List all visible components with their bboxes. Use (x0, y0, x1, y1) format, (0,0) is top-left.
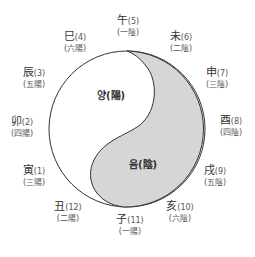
branch-name: 巳(4) (64, 31, 86, 44)
branch-name: 寅(1) (23, 165, 45, 178)
branch-char: 寅 (23, 164, 34, 177)
branch-name: 酉(8) (220, 115, 242, 128)
branch-number: (2) (22, 118, 33, 127)
branch-phase: (三陽) (23, 178, 45, 188)
branch-phase: (六陰) (166, 214, 193, 224)
yin-label: 음(陰) (129, 156, 157, 171)
branch-number: (11) (127, 216, 143, 225)
branch-name: 丑(12) (54, 201, 81, 214)
branch-phase: (一陰) (117, 28, 139, 38)
branch-number: (12) (65, 203, 81, 212)
branch-label: 子(11)(一陽) (116, 214, 143, 237)
branch-char: 亥 (166, 200, 177, 213)
branch-label: 巳(4)(六陽) (64, 31, 86, 54)
branch-char: 巳 (64, 30, 75, 43)
branch-label: 申(7)(三陰) (206, 67, 228, 90)
branch-label: 辰(3)(五陽) (23, 67, 45, 90)
branch-name: 午(5) (117, 15, 139, 28)
branch-label: 酉(8)(四陰) (220, 115, 242, 138)
branch-name: 亥(10) (166, 201, 193, 214)
branch-char: 戌 (204, 164, 215, 177)
branch-name: 辰(3) (23, 67, 45, 80)
branch-phase: (五陽) (23, 80, 45, 90)
branch-name: 戌(9) (204, 165, 226, 178)
branch-char: 丑 (54, 200, 65, 213)
branch-label: 丑(12)(二陽) (54, 201, 81, 224)
branch-name: 子(11) (116, 214, 143, 227)
branch-name: 卯(2) (11, 116, 33, 129)
branch-char: 辰 (23, 66, 34, 79)
branch-phase: (三陰) (206, 80, 228, 90)
branch-number: (4) (75, 33, 86, 42)
branch-number: (9) (215, 167, 226, 176)
branch-number: (7) (217, 69, 228, 78)
branch-number: (1) (34, 167, 45, 176)
branch-phase: (二陰) (170, 44, 192, 54)
branch-phase: (一陽) (116, 227, 143, 237)
branch-phase: (六陽) (64, 44, 86, 54)
branch-phase: (五陰) (204, 178, 226, 188)
branch-label: 寅(1)(三陽) (23, 165, 45, 188)
branch-char: 未 (170, 30, 181, 43)
branch-char: 卯 (11, 115, 22, 128)
branch-char: 申 (206, 66, 217, 79)
branch-name: 申(7) (206, 67, 228, 80)
branch-char: 酉 (220, 114, 231, 127)
yang-label: 양(陽) (97, 87, 125, 102)
branch-number: (8) (231, 117, 242, 126)
yin-yang-diagram: 양(陽) 음(陰) 午(5)(一陰)未(6)(二陰)申(7)(三陰)酉(8)(四… (0, 0, 255, 257)
branch-label: 亥(10)(六陰) (166, 201, 193, 224)
branch-label: 午(5)(一陰) (117, 15, 139, 38)
branch-label: 戌(9)(五陰) (204, 165, 226, 188)
branch-char: 子 (116, 213, 127, 226)
branch-phase: (二陽) (54, 214, 81, 224)
branch-phase: (四陽) (11, 129, 33, 139)
branch-label: 卯(2)(四陽) (11, 116, 33, 139)
branch-number: (3) (34, 69, 45, 78)
branch-phase: (四陰) (220, 128, 242, 138)
branch-label: 未(6)(二陰) (170, 31, 192, 54)
branch-number: (6) (181, 33, 192, 42)
branch-number: (10) (177, 203, 193, 212)
branch-name: 未(6) (170, 31, 192, 44)
branch-char: 午 (117, 14, 128, 27)
branch-number: (5) (128, 17, 139, 26)
